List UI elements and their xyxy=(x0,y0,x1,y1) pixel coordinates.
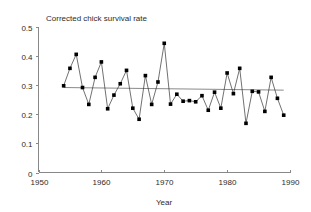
data-point-marker xyxy=(150,103,154,107)
data-point-marker xyxy=(106,107,110,111)
data-point-marker xyxy=(112,93,116,97)
data-point-marker xyxy=(87,103,91,107)
data-point-marker xyxy=(206,108,210,112)
chart-figure: Corrected chick survival rate 00.10.20.3… xyxy=(0,0,311,212)
data-point-marker xyxy=(131,106,135,110)
data-point-marker xyxy=(269,76,273,80)
data-point-marker xyxy=(276,97,280,101)
y-tick-label: 0.5 xyxy=(21,24,33,33)
data-point-marker xyxy=(100,60,104,64)
data-point-marker xyxy=(213,90,217,94)
data-point-marker xyxy=(118,82,122,86)
data-point-marker xyxy=(282,113,286,117)
data-point-marker xyxy=(162,42,166,46)
y-tick-label: 0.1 xyxy=(21,140,33,149)
data-point-marker xyxy=(200,94,204,98)
data-point-marker xyxy=(257,90,261,94)
data-point-marker xyxy=(62,84,66,88)
data-point-marker xyxy=(81,86,85,90)
x-tick-label: 1970 xyxy=(156,178,174,187)
survival-rate-line-chart: Corrected chick survival rate 00.10.20.3… xyxy=(0,0,311,212)
y-tick-label: 0.2 xyxy=(21,111,33,120)
data-point-marker xyxy=(225,71,229,75)
data-point-marker xyxy=(194,100,198,104)
data-point-marker xyxy=(232,92,236,96)
x-tick-label: 1980 xyxy=(219,178,237,187)
data-point-marker xyxy=(219,106,223,110)
data-point-marker xyxy=(250,90,254,94)
data-point-marker xyxy=(181,99,185,103)
x-tick-label: 1960 xyxy=(93,178,111,187)
data-point-marker xyxy=(74,53,78,57)
data-point-marker xyxy=(263,110,267,114)
data-point-marker xyxy=(125,69,129,73)
data-point-marker xyxy=(175,92,179,96)
data-point-marker xyxy=(244,122,248,126)
y-tick-label: 0.3 xyxy=(21,82,33,91)
data-point-marker xyxy=(144,74,148,78)
data-point-marker xyxy=(137,117,141,121)
chart-title: Corrected chick survival rate xyxy=(46,14,147,23)
data-point-marker xyxy=(238,67,242,71)
x-tick-label: 1990 xyxy=(282,178,300,187)
x-axis-title: Year xyxy=(156,198,173,207)
data-point-marker xyxy=(169,102,173,106)
data-point-marker xyxy=(93,76,97,80)
y-tick-label: 0.4 xyxy=(21,53,33,62)
x-tick-label: 1950 xyxy=(31,178,49,187)
data-point-marker xyxy=(156,80,160,84)
data-point-marker xyxy=(68,67,72,71)
data-point-marker xyxy=(188,99,192,103)
